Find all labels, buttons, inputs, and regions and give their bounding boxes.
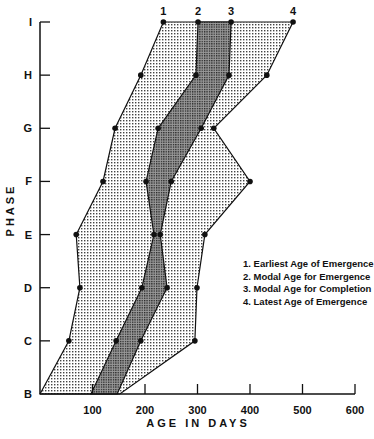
phase-tick-label: C <box>24 335 32 347</box>
data-point <box>198 125 204 131</box>
data-point <box>77 285 83 291</box>
data-point <box>113 338 119 344</box>
data-point <box>73 232 79 238</box>
x-tick-label: 400 <box>241 404 259 416</box>
x-tick-label: 600 <box>346 404 364 416</box>
series-number-label: 2 <box>195 5 201 17</box>
data-point <box>192 338 198 344</box>
series-number-label: 3 <box>228 5 234 17</box>
x-tick-label: 200 <box>136 404 154 416</box>
data-point <box>151 232 157 238</box>
data-point <box>195 19 201 25</box>
phase-tick-label: D <box>24 282 32 294</box>
series-number-label: 1 <box>160 5 166 17</box>
data-point <box>143 179 149 185</box>
data-point <box>157 232 163 238</box>
data-point <box>228 19 234 25</box>
data-point <box>226 72 232 78</box>
data-point <box>264 72 270 78</box>
x-tick-label: 100 <box>83 404 101 416</box>
data-point <box>112 125 118 131</box>
y-axis-ticks: BCDEFGHI <box>23 16 50 400</box>
earliest-to-latest-region <box>40 22 293 394</box>
x-axis-title: AGE IN DAYS <box>146 417 250 429</box>
legend-item: 2. Modal Age for Emergence <box>243 271 374 284</box>
series-number-label: 4 <box>290 5 297 17</box>
phase-tick-label: H <box>24 69 32 81</box>
data-point <box>247 179 253 185</box>
legend-item: 3. Modal Age for Completion <box>243 283 374 296</box>
data-point <box>138 72 144 78</box>
y-axis-title: PHASE <box>4 184 16 237</box>
data-point <box>202 232 208 238</box>
phase-tick-label: G <box>23 122 32 134</box>
data-point <box>66 338 72 344</box>
data-point <box>100 179 106 185</box>
phase-tick-label: I <box>29 16 32 28</box>
legend-item: 1. Earliest Age of Emergence <box>243 258 374 271</box>
x-tick-label: 500 <box>293 404 311 416</box>
data-point <box>138 338 144 344</box>
data-point <box>290 19 296 25</box>
data-point <box>155 125 161 131</box>
legend: 1. Earliest Age of Emergence 2. Modal Ag… <box>243 258 374 308</box>
phase-tick-label: F <box>25 175 32 187</box>
x-tick-label: 300 <box>188 404 206 416</box>
data-point <box>139 285 145 291</box>
data-point <box>164 285 170 291</box>
legend-item: 4. Latest Age of Emergence <box>243 296 374 309</box>
phase-tick-label: E <box>25 229 32 241</box>
data-point <box>193 72 199 78</box>
phase-tick-label: B <box>24 388 32 400</box>
data-point <box>161 19 167 25</box>
data-point <box>194 285 200 291</box>
data-point <box>168 179 174 185</box>
data-point <box>211 125 217 131</box>
series-number-labels: 1234 <box>160 5 297 17</box>
